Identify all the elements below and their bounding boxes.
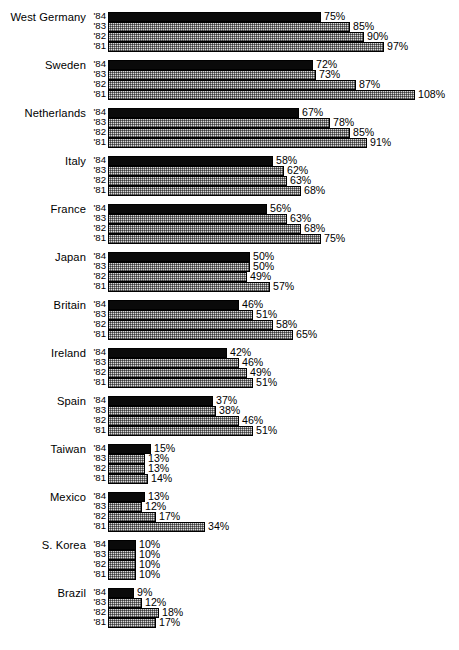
bar-value-label: 68% [304,185,325,195]
bar [108,224,301,234]
bar-value-label: 56% [270,203,291,213]
bar [108,426,253,436]
year-label: '81 [86,185,106,195]
bar-row: '8218% [0,608,459,618]
year-label: '81 [86,89,106,99]
bar [108,492,145,502]
bar-row: '8472% [0,60,459,70]
bar [108,358,239,368]
bar [108,252,250,262]
year-label: '81 [86,41,106,51]
bar [108,378,253,388]
year-label: '81 [86,473,106,483]
bar-row: '8151% [0,378,459,388]
bar-value-label: 67% [302,107,323,117]
bar-row: '8114% [0,474,459,484]
bar [108,608,159,618]
bar-row: '8378% [0,118,459,128]
bar [108,22,350,32]
bar [108,12,321,22]
bar-row: '8157% [0,282,459,292]
bar-value-label: 58% [276,319,297,329]
bar-row: '849% [0,588,459,598]
bar-row: '8467% [0,108,459,118]
bar-value-label: 51% [256,377,277,387]
bar-row: '8313% [0,454,459,464]
bar [108,300,239,310]
bar-row: '8268% [0,224,459,234]
bar-row: '8210% [0,560,459,570]
bar [108,186,301,196]
year-label: '81 [86,329,106,339]
bar-row: '81108% [0,90,459,100]
bar-row: '8168% [0,186,459,196]
bar-row: '8165% [0,330,459,340]
bar-group: S. Korea'8410%'8310%'8210%'8110% [0,540,459,580]
bar [108,176,287,186]
bar [108,406,216,416]
bar [108,618,156,628]
bar-row: '8213% [0,464,459,474]
year-label: '81 [86,617,106,627]
bar-group: Sweden'8472%'8373%'8287%'81108% [0,60,459,100]
bar [108,90,415,100]
bar [108,522,205,532]
bar-row: '8373% [0,70,459,80]
bar [108,454,145,464]
bar-row: '8258% [0,320,459,330]
bar-row: '8475% [0,12,459,22]
year-label: '81 [86,281,106,291]
bar [108,80,356,90]
bar [108,118,330,128]
bar [108,234,321,244]
bar-row: '8442% [0,348,459,358]
bar [108,474,148,484]
bar-row: '8117% [0,618,459,628]
bar-row: '8456% [0,204,459,214]
bar [108,550,136,560]
bar [108,560,136,570]
bar-row: '8362% [0,166,459,176]
bar-group: Ireland'8442%'8346%'8249%'8151% [0,348,459,388]
bar-value-label: 91% [370,137,391,147]
bar-row: '8338% [0,406,459,416]
bar [108,540,136,550]
bar [108,272,247,282]
bar-row: '8287% [0,80,459,90]
bar [108,282,270,292]
bar-row: '8249% [0,368,459,378]
bar-row: '8246% [0,416,459,426]
bar-value-label: 51% [256,425,277,435]
bar [108,570,136,580]
bar-value-label: 97% [387,41,408,51]
bar-group: Netherlands'8467%'8378%'8285%'8191% [0,108,459,148]
bar-group: Britain'8446%'8351%'8258%'8165% [0,300,459,340]
bar-value-label: 49% [250,271,271,281]
bar-row: '8458% [0,156,459,166]
bar-row: '8450% [0,252,459,262]
bar-row: '8351% [0,310,459,320]
bar [108,70,316,80]
bar-row: '8197% [0,42,459,52]
bar-group: Spain'8437%'8338%'8246%'8151% [0,396,459,436]
bar [108,128,350,138]
bar-row: '8385% [0,22,459,32]
bar [108,348,227,358]
bar [108,60,313,70]
bar [108,502,142,512]
bar [108,32,364,42]
bar [108,464,145,474]
bar [108,396,213,406]
bar [108,588,134,598]
bar-row: '8217% [0,512,459,522]
bar-chart: West Germany'8475%'8385%'8290%'8197%Swed… [0,0,459,650]
bar-row: '8413% [0,492,459,502]
year-label: '81 [86,521,106,531]
bar-row: '8410% [0,540,459,550]
bar-row: '8363% [0,214,459,224]
bar-value-label: 34% [208,521,229,531]
year-label: '81 [86,233,106,243]
bar-row: '8263% [0,176,459,186]
bar-row: '8312% [0,598,459,608]
bar-value-label: 87% [359,79,380,89]
